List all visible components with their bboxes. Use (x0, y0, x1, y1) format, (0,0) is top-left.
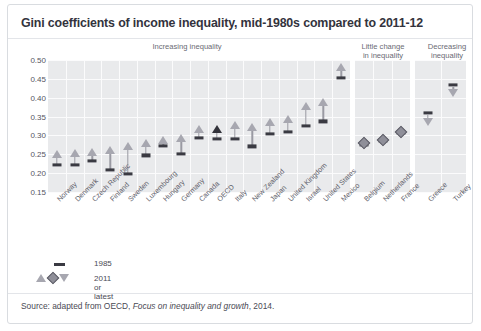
plot-panel-decreasing (415, 60, 466, 192)
data-point-2011-diamond (358, 137, 371, 150)
data-point-1985 (88, 159, 97, 162)
data-point-2011-diamond (376, 134, 389, 147)
y-tick-label: 0.45 (16, 74, 46, 83)
panel-header-decreasing-line2: inequality (417, 52, 477, 61)
data-point-2011-triangle-up (265, 118, 275, 126)
connector-line (109, 152, 110, 169)
data-point-1985 (283, 130, 292, 133)
data-point-2011-triangle-up (123, 142, 133, 150)
data-point-1985 (141, 154, 150, 157)
data-point-1985 (337, 77, 346, 80)
data-point-2011-triangle-up (283, 115, 293, 123)
data-point-1985 (449, 83, 458, 86)
data-point-2011-triangle-up (70, 149, 80, 157)
data-point-1985 (70, 164, 79, 167)
data-point-2011-triangle-up (194, 125, 204, 133)
triangle-down-icon (59, 274, 69, 282)
data-point-1985 (177, 152, 186, 155)
data-point-1985 (159, 144, 168, 147)
y-tick-label: 0.20 (16, 169, 46, 178)
diamond-icon (46, 272, 59, 285)
data-point-1985 (52, 163, 61, 166)
y-tick-label: 0.40 (16, 93, 46, 102)
connector-line (323, 104, 324, 121)
data-point-1985 (248, 145, 257, 148)
data-point-2011-triangle-up (87, 148, 97, 156)
data-point-2011-diamond (394, 126, 407, 139)
data-point-1985 (301, 124, 310, 127)
panel-header-little-change-line2: in inequality (353, 52, 413, 61)
dash-icon (54, 263, 65, 266)
data-series-decreasing (415, 60, 466, 192)
y-tick-label: 0.35 (16, 112, 46, 121)
triangle-up-icon (36, 274, 46, 282)
data-series-increasing (48, 60, 350, 192)
source-suffix: , 2014. (249, 301, 275, 311)
panel-header-decreasing: Decreasing inequality (417, 43, 477, 60)
y-tick-label: 0.30 (16, 131, 46, 140)
legend-label-2011: 2011 or latest (94, 274, 113, 301)
data-point-1985 (212, 138, 221, 141)
data-point-1985 (106, 168, 115, 171)
data-point-2011-triangle-up (158, 136, 168, 144)
y-axis: 0.150.200.250.300.350.400.450.50 (16, 60, 46, 192)
source-prefix: Source: adapted from OECD, (21, 301, 133, 311)
data-point-2011-triangle-up (336, 63, 346, 71)
data-point-1985 (230, 137, 239, 140)
panel-header-increasing: Increasing inequality (68, 43, 306, 52)
panel-header-little-change: Little change in inequality (353, 43, 413, 60)
x-axis-labels: NorwayDenmarkCzech RepublicFinlandSweden… (8, 193, 474, 255)
data-point-1985 (423, 111, 432, 114)
plot-panel-increasing (48, 60, 350, 192)
data-point-2011-triangle-down (448, 89, 458, 97)
data-point-2011-triangle-up (176, 134, 186, 142)
data-point-2011-triangle-up (247, 123, 257, 131)
legend-label-1985: 1985 (94, 259, 112, 268)
data-point-2011-triangle-down (423, 118, 433, 126)
data-point-2011-triangle-up-filled (212, 125, 222, 133)
y-tick-label: 0.25 (16, 150, 46, 159)
data-point-2011-triangle-up (105, 146, 115, 154)
data-series-little-change (355, 60, 410, 192)
connector-line (252, 129, 253, 146)
chart-card: Gini coefficients of income inequality, … (7, 4, 473, 324)
title-divider (8, 38, 472, 39)
data-point-2011-triangle-up (318, 98, 328, 106)
data-point-1985 (266, 132, 275, 135)
source-title: Focus on inequality and growth (133, 301, 249, 311)
connector-line (305, 108, 306, 124)
page-title: Gini coefficients of income inequality, … (21, 16, 423, 30)
data-point-2011-triangle-up (141, 139, 151, 147)
data-point-1985 (195, 136, 204, 139)
data-point-1985 (319, 120, 328, 123)
source-note: Source: adapted from OECD, Focus on ineq… (21, 301, 274, 311)
data-point-2011-triangle-up (52, 150, 62, 158)
plot-panel-little-change (355, 60, 410, 192)
data-point-2011-triangle-up (230, 121, 240, 129)
legend-marker-icons (36, 273, 69, 282)
source-divider (8, 293, 472, 294)
data-point-2011-triangle-up (301, 102, 311, 110)
y-tick-label: 0.50 (16, 56, 46, 65)
